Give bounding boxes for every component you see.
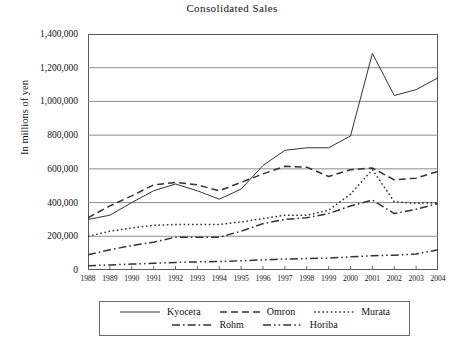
y-tick-label: 400,000: [47, 198, 78, 208]
x-tick-label: 1995: [234, 274, 249, 283]
y-tick-label: 1,000,000: [40, 96, 78, 106]
legend-label: Rohm: [219, 319, 243, 330]
legend-row: KyoceraOmronMurata: [102, 306, 407, 317]
y-tick-label: 600,000: [47, 164, 78, 174]
y-tick-label: 800,000: [47, 130, 78, 140]
x-tick-label: 1993: [190, 274, 205, 283]
x-tick-label: 1994: [212, 274, 227, 283]
legend-swatch-solid: [119, 307, 161, 317]
plot-area: [88, 34, 438, 270]
legend-row: RohmHoriba: [102, 319, 407, 330]
legend-item-rohm: Rohm: [171, 319, 243, 330]
series-line-horiba: [88, 250, 438, 266]
x-tick-label: 1996: [255, 274, 270, 283]
series-line-kyocera: [88, 53, 438, 219]
legend-swatch-dashdotdot: [262, 320, 304, 330]
x-tick-label: 2003: [409, 274, 424, 283]
legend-item-murata: Murata: [313, 306, 390, 317]
series-line-omron: [88, 166, 438, 217]
x-tick-label: 1998: [299, 274, 314, 283]
y-axis-tick-labels: 1,400,0001,200,0001,000,000800,000600,00…: [0, 34, 84, 270]
chart-title: Consolidated Sales: [0, 2, 464, 14]
x-tick-label: 1997: [277, 274, 292, 283]
legend-label: Kyocera: [167, 306, 201, 317]
legend-swatch-dashed: [219, 307, 261, 317]
legend-swatch-dashdot: [171, 320, 213, 330]
legend-item-kyocera: Kyocera: [119, 306, 201, 317]
chart-legend: KyoceraOmronMurataRohmHoriba: [99, 301, 410, 336]
x-axis-tick-labels: 1988198919901991199219931994199519961997…: [88, 274, 438, 288]
legend-item-horiba: Horiba: [262, 319, 338, 330]
x-tick-label: 1989: [102, 274, 117, 283]
x-tick-label: 1990: [124, 274, 139, 283]
x-tick-label: 1999: [321, 274, 336, 283]
y-tick-label: 1,200,000: [40, 63, 78, 73]
x-tick-label: 1988: [80, 274, 95, 283]
x-tick-label: 2001: [365, 274, 380, 283]
x-tick-label: 2000: [343, 274, 358, 283]
legend-item-omron: Omron: [219, 306, 295, 317]
legend-label: Horiba: [310, 319, 338, 330]
x-tick-label: 1991: [146, 274, 161, 283]
chart-container: Consolidated Sales In millions of yen 1,…: [0, 0, 464, 357]
y-tick-label: 1,400,000: [40, 29, 78, 39]
legend-swatch-dotted: [313, 307, 355, 317]
x-tick-label: 2002: [387, 274, 402, 283]
legend-label: Murata: [361, 306, 390, 317]
x-tick-label: 1992: [168, 274, 183, 283]
series-lines: [88, 34, 438, 270]
y-tick-label: 200,000: [47, 231, 78, 241]
y-tick-label: 0: [73, 265, 78, 275]
legend-label: Omron: [267, 306, 295, 317]
series-line-rohm: [88, 200, 438, 255]
x-tick-label: 2004: [430, 274, 445, 283]
